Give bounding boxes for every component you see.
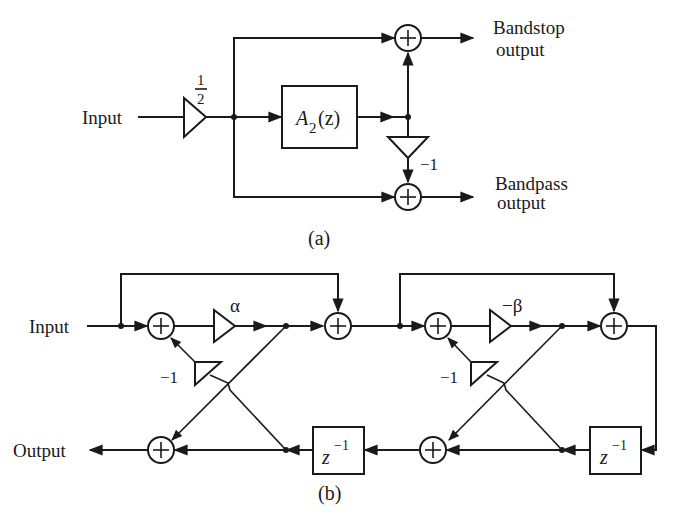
stage1-inverter-label: −1: [160, 368, 178, 387]
delay1-exp: −1: [334, 438, 349, 453]
bandpass-label-line1: Bandpass: [495, 173, 568, 194]
stage2-output-adder-bottom: [420, 437, 446, 463]
bandstop-label-line1: Bandstop: [493, 17, 565, 38]
stage1-output-adder: [325, 313, 351, 339]
bandpass-adder: [395, 184, 421, 210]
stage2-inverter-label: −1: [440, 368, 458, 387]
beta-label: −β: [502, 295, 522, 316]
delay2-base: z: [599, 446, 608, 468]
allpass-block-base: A: [294, 107, 309, 129]
input-label-b: Input: [29, 316, 70, 337]
gain-numerator: 1: [197, 72, 205, 88]
inverter-gain-label: −1: [420, 155, 438, 174]
figure-a: Input 1 2 A 2 (z) −1: [82, 17, 568, 250]
bandstop-adder: [395, 25, 421, 51]
stage1-inverter-triangle: [195, 362, 221, 385]
allpass-block-sub: 2: [309, 120, 317, 136]
delay1-base: z: [321, 446, 330, 468]
figure-b: Input Output α −1: [13, 274, 656, 505]
stage2-inverter-triangle: [471, 362, 497, 385]
bandstop-label-line2: output: [496, 39, 545, 60]
stage2-input-adder: [425, 313, 451, 339]
caption-b: (b): [318, 482, 341, 505]
stage1-output-adder-bottom: [148, 437, 174, 463]
alpha-label: α: [230, 295, 240, 316]
allpass-block-arg: (z): [318, 107, 340, 130]
gain-denominator: 2: [197, 91, 205, 107]
allpass-filter-diagram: Input 1 2 A 2 (z) −1: [0, 0, 676, 521]
output-label-b: Output: [13, 440, 67, 461]
delay2-exp: −1: [612, 438, 627, 453]
bandpass-label-line2: output: [497, 192, 546, 213]
caption-a: (a): [308, 227, 330, 250]
input-label: Input: [82, 107, 123, 128]
stage1-input-adder: [148, 313, 174, 339]
stage2-output-adder: [601, 313, 627, 339]
